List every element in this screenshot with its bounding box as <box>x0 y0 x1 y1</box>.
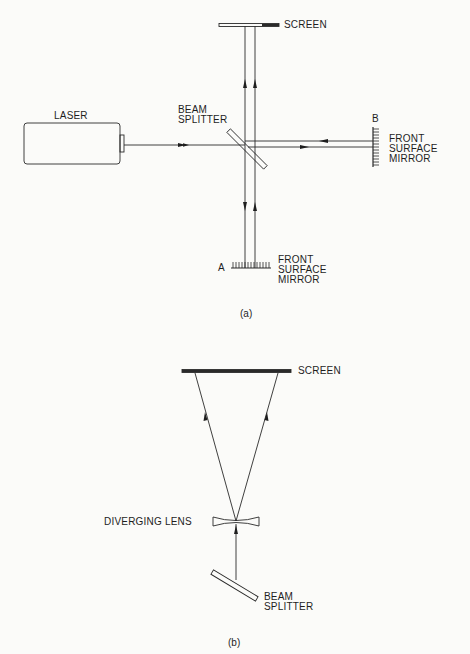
caption-b: (b) <box>228 637 240 648</box>
screen-b-label: SCREEN <box>298 366 341 376</box>
arrow-icon <box>178 143 186 147</box>
mirror-b <box>373 127 379 167</box>
beam-splitter-a <box>227 129 267 169</box>
screen-a-label: SCREEN <box>284 20 327 30</box>
arrow-icon <box>300 145 309 149</box>
arrow-icon <box>234 525 238 534</box>
beam-splitter-b <box>211 570 258 601</box>
mirror-b-letter: B <box>372 114 379 124</box>
arrow-icon <box>243 202 247 211</box>
mirror-a-label-3: MIRROR <box>278 275 320 285</box>
mirror-a <box>231 262 271 268</box>
caption-a: (a) <box>240 308 252 319</box>
arrow-icon <box>319 139 328 143</box>
lens-label: DIVERGING LENS <box>104 517 192 527</box>
beam-splitter-b-label-2: SPLITTER <box>264 602 313 612</box>
laser-label: LASER <box>54 111 88 121</box>
arrow-icon <box>253 79 257 88</box>
screen-a <box>219 24 279 27</box>
beam-splitter-a-label-2: SPLITTER <box>178 115 227 125</box>
mirror-b-label-3: MIRROR <box>389 154 431 164</box>
mirror-a-letter: A <box>218 263 225 273</box>
screen-b <box>182 370 291 373</box>
arrow-icon <box>243 79 247 88</box>
arrow-icon <box>253 202 257 211</box>
interferometer-diagram <box>0 0 470 654</box>
laser-body <box>24 123 124 164</box>
